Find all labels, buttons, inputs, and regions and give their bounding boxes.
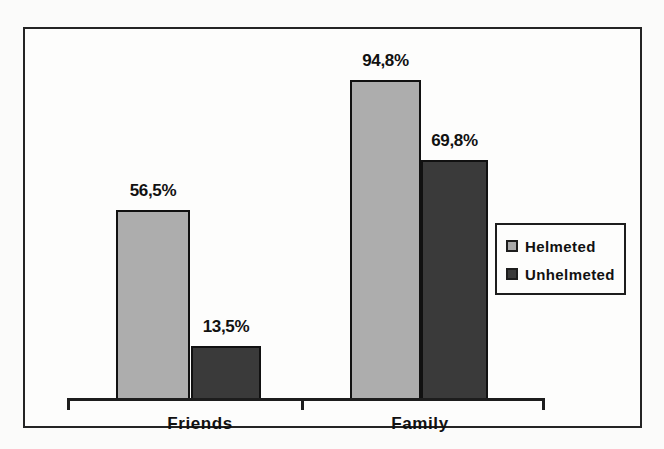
legend-item-unhelmeted: Unhelmeted — [506, 260, 624, 288]
bar-value-friends-helmeted: 56,5% — [116, 181, 190, 201]
x-axis-label-family: Family — [325, 414, 515, 434]
bar-value-family-helmeted: 94,8% — [350, 51, 421, 71]
legend-item-helmeted: Helmeted — [506, 232, 624, 260]
bar-value-family-unhelmeted: 69,8% — [421, 131, 488, 151]
x-axis-tick-start — [67, 401, 70, 410]
bar-family-helmeted — [350, 80, 421, 400]
x-axis-line — [67, 398, 545, 401]
chart-frame: 56,5% 13,5% 94,8% 69,8% Friends Family H… — [23, 27, 642, 428]
bar-family-unhelmeted — [421, 160, 488, 400]
chart-page: 56,5% 13,5% 94,8% 69,8% Friends Family H… — [0, 0, 664, 449]
bar-friends-helmeted — [116, 210, 190, 400]
legend-swatch-helmeted-icon — [506, 240, 518, 252]
legend-swatch-unhelmeted-icon — [506, 268, 518, 280]
legend-label-helmeted: Helmeted — [525, 238, 596, 255]
bar-friends-unhelmeted — [191, 346, 261, 400]
x-axis-tick-middle — [301, 401, 304, 410]
legend-label-unhelmeted: Unhelmeted — [525, 266, 615, 283]
bar-value-friends-unhelmeted: 13,5% — [191, 317, 261, 337]
chart-legend: Helmeted Unhelmeted — [495, 223, 626, 295]
x-axis-tick-end — [542, 401, 545, 410]
x-axis-label-friends: Friends — [105, 414, 295, 434]
